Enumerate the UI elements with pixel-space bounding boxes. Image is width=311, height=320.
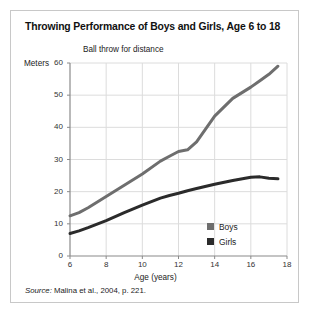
y-tick-label: 40 — [37, 122, 63, 131]
legend-swatch-boys — [207, 223, 214, 230]
x-tick-label: 8 — [97, 260, 115, 269]
y-tick-label: 50 — [37, 90, 63, 99]
y-tick-label: 0 — [37, 251, 63, 260]
chart-card: Throwing Performance of Boys and Girls, … — [10, 10, 299, 303]
legend-label-boys: Boys — [219, 222, 238, 232]
legend-item-girls: Girls — [207, 234, 238, 249]
y-tick-label: 10 — [37, 219, 63, 228]
x-tick-label: 14 — [206, 260, 224, 269]
y-tick-label: 60 — [37, 58, 63, 67]
x-tick-label: 12 — [170, 260, 188, 269]
y-tick-label: 30 — [37, 155, 63, 164]
y-tick-label: 20 — [37, 187, 63, 196]
source-text: Malina et al., 2004, p. 221. — [52, 286, 146, 295]
legend-swatch-girls — [207, 238, 214, 245]
legend-label-girls: Girls — [219, 237, 236, 247]
x-tick-label: 10 — [133, 260, 151, 269]
source-note: Source: Malina et al., 2004, p. 221. — [25, 286, 146, 295]
x-tick-label: 18 — [278, 260, 296, 269]
x-tick-label: 6 — [61, 260, 79, 269]
legend-item-boys: Boys — [207, 219, 238, 234]
x-tick-label: 16 — [242, 260, 260, 269]
chart-legend: Boys Girls — [207, 219, 238, 249]
plot-area: 0102030405060681012141618 — [11, 11, 300, 304]
source-label: Source: — [25, 286, 52, 295]
x-axis-label: Age (years) — [11, 273, 300, 282]
